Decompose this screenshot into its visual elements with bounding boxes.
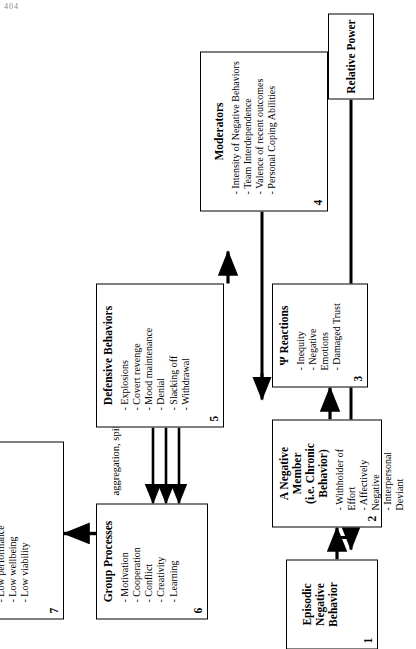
box-item: Inequity xyxy=(295,290,307,370)
box-items-2: Withholder of Effort Affectively Negativ… xyxy=(334,420,407,526)
box-relative-power[interactable]: Relative Power xyxy=(328,13,374,99)
box-item: Low viability xyxy=(19,448,31,602)
box-item: Withholder of Effort xyxy=(334,426,358,510)
box-item: Low wellbeing xyxy=(7,448,19,602)
box-item: Valence of recent outcomes xyxy=(254,58,266,194)
box-item: Withdrawal xyxy=(180,290,192,410)
box-item: Negative Emotions xyxy=(307,290,331,370)
box-defensive-behaviors[interactable]: 5 Defensive Behaviors Explosions Covert … xyxy=(96,283,224,427)
box-item: Interpersonal Deviant xyxy=(382,426,406,510)
box-item: Affectively Negative xyxy=(358,426,382,510)
box-item: Damaged Trust xyxy=(331,290,343,370)
box-item: Slacking off xyxy=(168,290,180,410)
box-item: Personal Coping Abilities xyxy=(266,58,278,194)
box-title-6: Group Processes xyxy=(102,510,115,612)
box-psi-reactions[interactable]: 3 Ψ Reactions Inequity Negative Emotions… xyxy=(272,283,368,387)
box-number-7: 7 xyxy=(49,607,61,613)
box-number-1: 1 xyxy=(363,637,375,643)
box-number-4: 4 xyxy=(313,199,325,205)
box-title-4: Moderators xyxy=(213,58,226,204)
box-group-outcomes[interactable]: 7 Group Outcomes Low performance Low wel… xyxy=(0,441,64,619)
box-item: Creativity xyxy=(155,510,167,602)
box-items-3: Inequity Negative Emotions Damaged Trust xyxy=(295,284,344,386)
box-item: Intensity of Negative Behaviors xyxy=(230,58,242,194)
box-items-7: Low performance Low wellbeing Low viabil… xyxy=(0,442,31,618)
box-item: Cooperation xyxy=(131,510,143,602)
box-number-6: 6 xyxy=(193,607,205,613)
box-title-2: A Negative Member (i.e. Chronic Behavior… xyxy=(278,426,330,520)
box-items-6: Motivation Cooperation Conflict Creativi… xyxy=(119,504,180,618)
box-item: Motivation xyxy=(119,510,131,602)
box-negative-member[interactable]: 2 A Negative Member (i.e. Chronic Behavi… xyxy=(272,419,382,527)
box-number-2: 2 xyxy=(367,515,379,521)
box-title-3: Ψ Reactions xyxy=(278,290,291,380)
box-group-processes[interactable]: 6 Group Processes Motivation Cooperation… xyxy=(96,503,208,619)
box-item: Explosions xyxy=(119,290,131,410)
box-episodic-negative-behavior[interactable]: 1 Episodic Negative Behavior xyxy=(286,559,378,649)
box-number-3: 3 xyxy=(353,375,365,381)
box-item: Learning xyxy=(168,510,180,602)
box-number-5: 5 xyxy=(209,415,221,421)
box-item: Denial xyxy=(155,290,167,410)
box-items-5: Explosions Covert revenge Mood maintenan… xyxy=(119,284,192,426)
box-item: Team Interdependence xyxy=(242,58,254,194)
box-item: Low performance xyxy=(0,448,7,602)
box-title-5: Defensive Behaviors xyxy=(102,290,115,420)
box-moderators[interactable]: 4 Moderators Intensity of Negative Behav… xyxy=(200,51,328,211)
box-item: Conflict xyxy=(143,510,155,602)
box-items-4: Intensity of Negative Behaviors Team Int… xyxy=(230,52,279,210)
box-item: Mood maintenance xyxy=(143,290,155,410)
box-title-1: Episodic Negative Behavior xyxy=(301,566,340,642)
box-item: Covert revenge xyxy=(131,290,143,410)
